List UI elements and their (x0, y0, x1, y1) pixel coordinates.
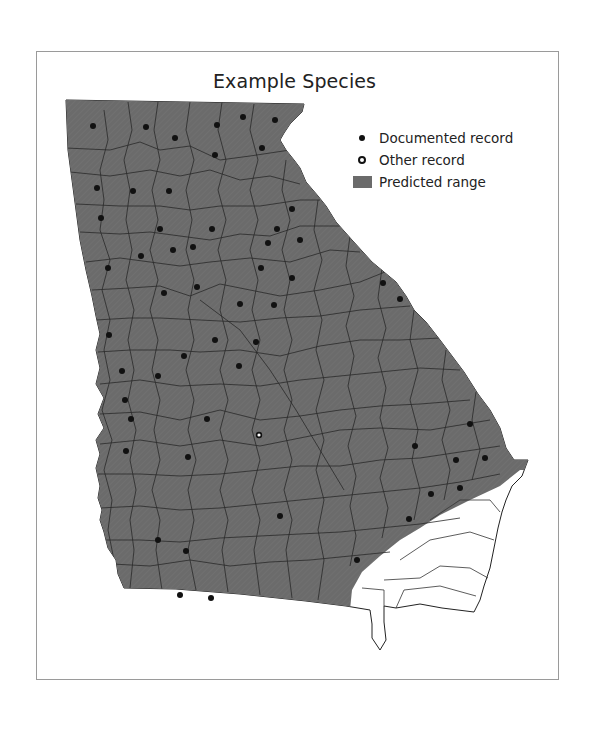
documented-record-marker (397, 296, 403, 302)
legend-item-documented: Documented record (352, 127, 513, 149)
documented-record-marker (289, 275, 295, 281)
documented-record-marker (406, 516, 412, 522)
legend-item-other: Other record (352, 149, 513, 171)
documented-record-marker (253, 339, 259, 345)
filled-dot-icon (352, 131, 372, 145)
documented-record-marker (155, 537, 161, 543)
legend-item-predicted-range: Predicted range (352, 171, 513, 193)
documented-record-marker (143, 124, 149, 130)
documented-record-marker (94, 185, 100, 191)
documented-record-marker (185, 454, 191, 460)
documented-record-marker (190, 244, 196, 250)
documented-record-marker (138, 253, 144, 259)
legend-label: Other record (379, 152, 465, 168)
documented-record-marker (457, 485, 463, 491)
documented-record-marker (122, 397, 128, 403)
documented-record-marker (161, 290, 167, 296)
legend: Documented record Other record Predicted… (352, 127, 513, 193)
documented-record-marker (204, 416, 210, 422)
legend-label: Predicted range (379, 174, 486, 190)
documented-record-marker (130, 188, 136, 194)
documented-record-marker (240, 114, 246, 120)
documented-record-marker (354, 557, 360, 563)
documented-record-marker (271, 302, 277, 308)
documented-record-marker (237, 301, 243, 307)
other-record-marker (257, 433, 262, 438)
documented-record-marker (123, 448, 129, 454)
documented-record-marker (467, 421, 473, 427)
documented-record-marker (183, 548, 189, 554)
documented-record-marker (258, 265, 264, 271)
documented-record-marker (90, 123, 96, 129)
gray-swatch-icon (352, 175, 372, 189)
documented-record-marker (265, 240, 271, 246)
documented-record-marker (289, 206, 295, 212)
documented-record-marker (274, 226, 280, 232)
documented-record-marker (177, 592, 183, 598)
documented-record-marker (170, 247, 176, 253)
documented-record-marker (428, 491, 434, 497)
documented-record-marker (212, 152, 218, 158)
documented-record-marker (209, 226, 215, 232)
documented-record-marker (482, 455, 488, 461)
documented-record-marker (297, 237, 303, 243)
documented-record-marker (208, 595, 214, 601)
documented-record-marker (119, 368, 125, 374)
documented-record-marker (181, 353, 187, 359)
documented-record-marker (380, 280, 386, 286)
documented-record-marker (155, 373, 161, 379)
documented-record-marker (105, 265, 111, 271)
documented-record-marker (453, 457, 459, 463)
documented-record-marker (166, 188, 172, 194)
open-dot-icon (352, 153, 372, 167)
documented-record-marker (272, 117, 278, 123)
other-records (257, 433, 262, 438)
documented-record-marker (157, 226, 163, 232)
documented-record-marker (214, 122, 220, 128)
documented-record-marker (172, 135, 178, 141)
georgia-county-map (0, 0, 589, 735)
documented-record-marker (259, 145, 265, 151)
documented-record-marker (277, 513, 283, 519)
documented-record-marker (106, 332, 112, 338)
documented-record-marker (194, 284, 200, 290)
documented-record-marker (98, 215, 104, 221)
documented-record-marker (412, 443, 418, 449)
legend-label: Documented record (379, 130, 513, 146)
documented-record-marker (212, 337, 218, 343)
documented-record-marker (128, 416, 134, 422)
documented-record-marker (236, 363, 242, 369)
